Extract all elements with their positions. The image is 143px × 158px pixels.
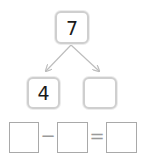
equation-box-2[interactable] — [57, 122, 88, 153]
minus-sign: − — [39, 127, 57, 145]
arrow-right — [71, 45, 99, 71]
part-box-right[interactable] — [83, 77, 117, 109]
whole-box[interactable]: 7 — [55, 11, 89, 44]
equation-box-1[interactable] — [9, 122, 39, 153]
arrow-left — [46, 45, 71, 71]
part-box-left[interactable]: 4 — [27, 77, 60, 109]
whole-value: 7 — [66, 17, 78, 39]
equation-box-3[interactable] — [106, 122, 137, 153]
part-left-value: 4 — [37, 82, 49, 104]
equals-sign: = — [88, 127, 106, 145]
